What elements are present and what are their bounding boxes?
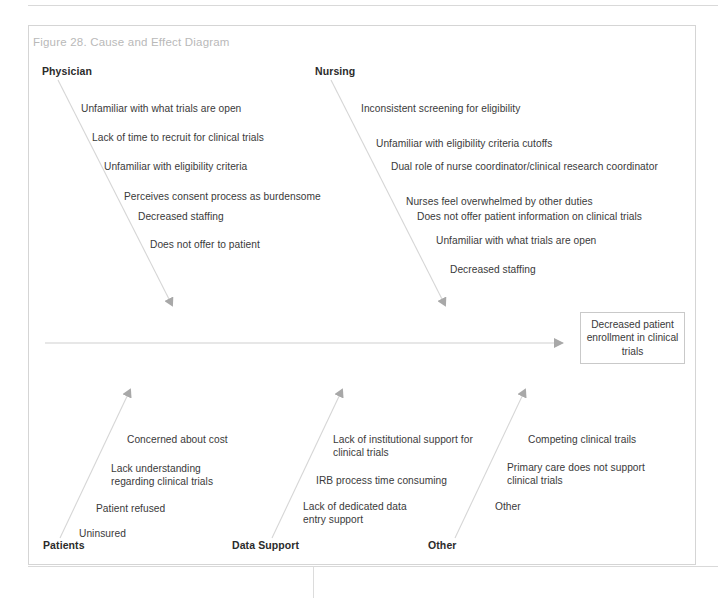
effect-box-text: Decreased patient enrollment in clinical… <box>581 318 684 359</box>
cause-physician-4: Perceives consent process as burdensome <box>124 190 321 203</box>
bone-label-physician: Physician <box>42 65 92 77</box>
cause-nursing-6: Unfamiliar with what trials are open <box>436 234 596 247</box>
bone-label-patients: Patients <box>43 539 85 551</box>
cause-other-1: Competing clinical trails <box>528 433 636 446</box>
page-divider-vertical <box>313 567 314 598</box>
cause-patients-3: Patient refused <box>96 502 165 515</box>
cause-nursing-1: Inconsistent screening for eligibility <box>361 102 520 115</box>
cause-other-3: Other <box>495 500 521 513</box>
cause-nursing-5: Does not offer patient information on cl… <box>417 210 642 223</box>
cause-patients-1: Concerned about cost <box>127 433 228 446</box>
cause-physician-6: Does not offer to patient <box>150 238 260 251</box>
cause-nursing-7: Decreased staffing <box>450 263 536 276</box>
cause-nursing-3: Dual role of nurse coordinator/clinical … <box>391 160 658 173</box>
page-rule-bottom <box>28 566 718 567</box>
bone-label-data-support: Data Support <box>232 539 299 551</box>
figure-title: Figure 28. Cause and Effect Diagram <box>33 36 230 48</box>
cause-patients-4: Uninsured <box>79 527 126 540</box>
cause-physician-5: Decreased staffing <box>138 210 224 223</box>
cause-physician-2: Lack of time to recruit for clinical tri… <box>92 131 264 144</box>
cause-data-support-2: IRB process time consuming <box>316 474 447 487</box>
cause-physician-1: Unfamiliar with what trials are open <box>81 102 241 115</box>
cause-nursing-2: Unfamiliar with eligibility criteria cut… <box>376 137 552 150</box>
cause-patients-2: Lack understanding regarding clinical tr… <box>111 462 241 488</box>
page-rule-top <box>28 5 718 6</box>
effect-box: Decreased patient enrollment in clinical… <box>580 312 685 364</box>
cause-nursing-4: Nurses feel overwhelmed by other duties <box>406 195 593 208</box>
cause-data-support-3: Lack of dedicated data entry support <box>303 500 418 526</box>
cause-other-2: Primary care does not support clinical t… <box>507 461 652 487</box>
cause-physician-3: Unfamiliar with eligibility criteria <box>104 160 247 173</box>
cause-data-support-1: Lack of institutional support for clinic… <box>333 433 473 459</box>
bone-label-nursing: Nursing <box>315 65 355 77</box>
bone-label-other: Other <box>428 539 457 551</box>
